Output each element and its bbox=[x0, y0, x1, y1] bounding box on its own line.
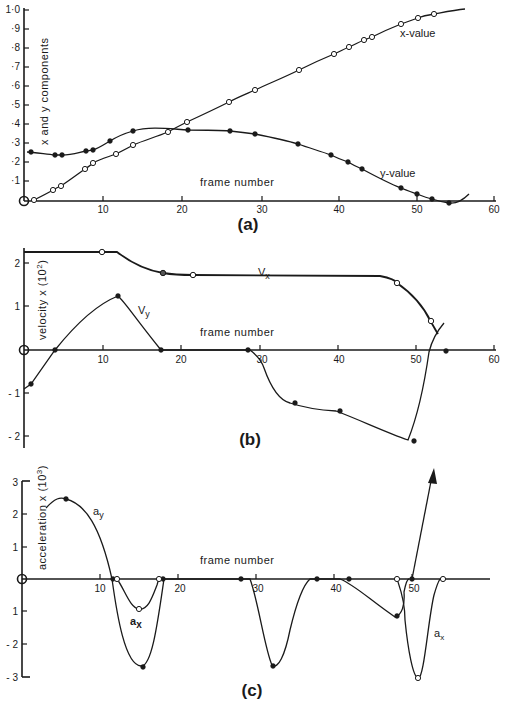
panel-c-y-tick-labels: 3 2 1 1 - 2 - 3 bbox=[6, 477, 18, 683]
x-tick-label: 40 bbox=[330, 583, 342, 594]
y-tick-label: 2 bbox=[14, 258, 20, 269]
y-tick-label: - 1 bbox=[8, 388, 20, 399]
x-tick-label: 60 bbox=[488, 204, 500, 215]
x-tick-label: 40 bbox=[333, 204, 345, 215]
x-tick-label: 20 bbox=[175, 354, 187, 365]
x-tick-label: 10 bbox=[94, 583, 106, 594]
x-tick-label: 50 bbox=[408, 583, 420, 594]
x-tick-label: 10 bbox=[97, 204, 109, 215]
x-tick-label: 30 bbox=[256, 204, 268, 215]
y-tick-label: ·2 bbox=[11, 156, 20, 167]
panel-c-x-axis-title: frame number bbox=[200, 554, 274, 566]
x-value-points bbox=[31, 11, 436, 202]
figure: 1·0 ·9 ·8 ·7 ·6 ·5 ·4 ·3 ·2 ·1 10 20 30 … bbox=[0, 0, 507, 702]
y-tick-label: - 2 bbox=[8, 431, 20, 442]
panel-a: 1·0 ·9 ·8 ·7 ·6 ·5 ·4 ·3 ·2 ·1 10 20 30 … bbox=[6, 4, 500, 234]
ay-points bbox=[64, 497, 415, 670]
y-tick-label: 2 bbox=[12, 509, 18, 520]
y-tick-label: ·4 bbox=[11, 118, 20, 129]
y-tick-label: ·7 bbox=[11, 61, 20, 72]
panel-c-y-axis-title: acceleration x (103) bbox=[35, 465, 48, 570]
panel-c-x-tick-labels: 10 20 30 40 50 bbox=[94, 583, 420, 594]
y-tick-label: ·6 bbox=[11, 80, 20, 91]
ax-label-left: ax bbox=[130, 615, 142, 630]
panel-c-label: (c) bbox=[242, 681, 263, 700]
panel-a-y-axis-title: x and y components bbox=[38, 38, 50, 145]
y-tick-label: ·8 bbox=[11, 42, 20, 53]
y-tick-label: 1 bbox=[14, 301, 20, 312]
panel-a-x-tick-labels: 10 20 30 40 50 60 bbox=[97, 204, 500, 215]
panel-b-y-tick-labels: 2 1 - 1 - 2 bbox=[8, 258, 20, 442]
y-tick-label: 1 bbox=[12, 606, 18, 617]
y-tick-label: ·3 bbox=[11, 137, 20, 148]
ax-label-right: ax bbox=[434, 627, 444, 642]
x-tick-label: 40 bbox=[333, 354, 345, 365]
x-tick-label: 50 bbox=[410, 354, 422, 365]
panel-b-x-tick-labels: 10 20 30 40 50 60 bbox=[97, 354, 500, 365]
x-tick-label: 20 bbox=[176, 204, 188, 215]
y-tick-label: - 2 bbox=[6, 639, 18, 650]
vy-curve bbox=[24, 296, 444, 440]
y-tick-label: ·5 bbox=[11, 99, 20, 110]
panel-c: 3 2 1 1 - 2 - 3 10 20 30 40 50 accelerat… bbox=[6, 465, 490, 700]
y-tick-label: 3 bbox=[12, 477, 18, 488]
x-tick-label: 10 bbox=[97, 354, 109, 365]
panel-b: 2 1 - 1 - 2 10 20 30 40 50 60 velocity x… bbox=[8, 248, 500, 449]
vy-points bbox=[29, 294, 449, 444]
x-value-label: x-value bbox=[400, 27, 435, 39]
y-value-label: y-value bbox=[380, 167, 415, 179]
ay-label: ay bbox=[93, 505, 104, 520]
panel-a-label: (a) bbox=[238, 215, 259, 234]
panel-b-label: (b) bbox=[239, 430, 261, 449]
ax-points bbox=[114, 576, 445, 680]
vy-label: Vy bbox=[138, 304, 150, 319]
vx-label: Vx bbox=[258, 266, 270, 281]
panel-b-x-axis-title: frame number bbox=[200, 326, 274, 338]
panel-a-y-tick-labels: 1·0 ·9 ·8 ·7 ·6 ·5 ·4 ·3 ·2 ·1 bbox=[6, 4, 21, 186]
x-tick-label: 20 bbox=[174, 583, 186, 594]
panel-a-x-axis-title: frame number bbox=[200, 176, 274, 188]
ay-arrow-line bbox=[412, 476, 432, 579]
arrow-up-icon bbox=[428, 468, 437, 484]
x-tick-label: 50 bbox=[411, 204, 423, 215]
y-tick-label: 1·0 bbox=[6, 4, 21, 15]
y-tick-label: ·1 bbox=[11, 175, 20, 186]
y-tick-label: - 3 bbox=[6, 672, 18, 683]
panel-b-y-axis-title: velocity x (102) bbox=[35, 260, 48, 340]
x-tick-label: 60 bbox=[488, 354, 500, 365]
y-tick-label: 1 bbox=[12, 542, 18, 553]
y-tick-label: ·9 bbox=[11, 23, 20, 34]
vx-curve bbox=[24, 252, 438, 334]
